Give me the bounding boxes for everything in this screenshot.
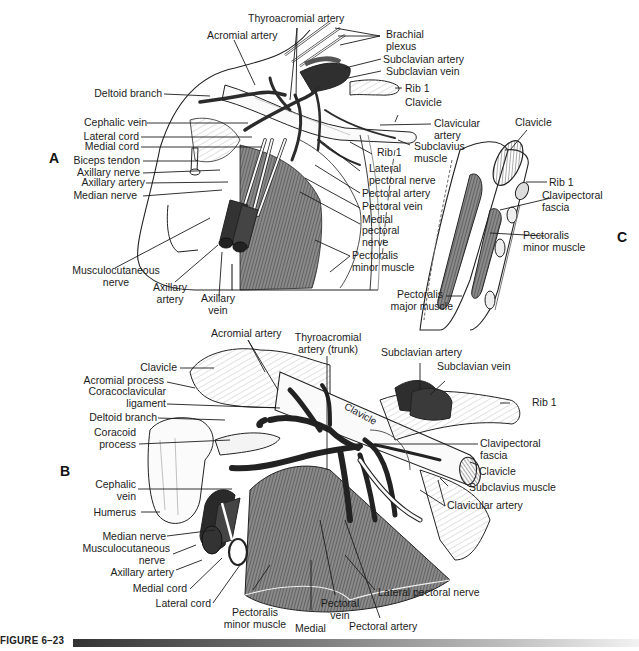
label-cephalic-vein-b-line1: Cephalic bbox=[95, 479, 136, 491]
panel-b-artwork bbox=[148, 349, 520, 612]
label-thyroacromial-artery: Thyroacromial artery bbox=[248, 13, 344, 25]
label-deltoid-branch-b: Deltoid branch bbox=[89, 412, 157, 424]
label-subclavian-artery-b: Subclavian artery bbox=[381, 347, 462, 359]
label-pectoralis-minor-b-line1: Pectoralis bbox=[220, 607, 290, 619]
label-pectoral-vein-b-line1: Pectoral bbox=[315, 598, 365, 610]
panel-letter-a: A bbox=[49, 150, 59, 166]
label-coracoid-process-line2: process bbox=[99, 439, 136, 451]
label-subclavius-muscle-line1: Subclavius bbox=[414, 141, 465, 153]
panel-letter-b: B bbox=[60, 463, 70, 479]
label-clavipectoral-fascia-b-line1: Clavipectoral bbox=[480, 438, 541, 450]
label-axillary-artery-a-left: Axillary artery bbox=[81, 177, 145, 189]
label-axillary-artery-b: Axillary artery bbox=[110, 567, 174, 579]
label-pectoralis-minor-c-line1: Pectoralis bbox=[523, 230, 569, 242]
label-subclavius-muscle-b: Subclavius muscle bbox=[469, 482, 556, 494]
label-lateral-pectoral-nerve-line1: Lateral bbox=[369, 163, 401, 175]
label-median-nerve-b: Median nerve bbox=[102, 531, 166, 543]
label-rib1-c: Rib 1 bbox=[549, 177, 574, 189]
label-thyroacromial-trunk-line1: Thyroacromial bbox=[287, 332, 369, 344]
label-musculocutaneous-b-line1: Musculocutaneous bbox=[82, 543, 170, 555]
label-medial-cord-b: Medial cord bbox=[133, 583, 187, 595]
label-clavipectoral-fascia-b-line2: fascia bbox=[480, 450, 507, 462]
label-lateral-cord-b: Lateral cord bbox=[156, 598, 211, 610]
label-acromial-artery-b: Acromial artery bbox=[211, 328, 282, 340]
label-pectoralis-minor-a-line1: Pectoralis bbox=[352, 250, 398, 262]
label-pectoralis-major-line1: Pectoralis bbox=[397, 289, 443, 301]
label-pectoralis-major-line2: major muscle bbox=[391, 301, 453, 313]
label-clavicle-c: Clavicle bbox=[515, 117, 552, 129]
label-cephalic-vein-a: Cephalic vein bbox=[84, 117, 147, 129]
label-median-nerve-a: Median nerve bbox=[73, 190, 137, 202]
label-cephalic-vein-b-line2: vein bbox=[117, 491, 136, 503]
label-clavicle-a: Clavicle bbox=[405, 97, 442, 109]
label-rib1-a-top: Rib 1 bbox=[405, 83, 430, 95]
label-axillary-artery-a-bottom-line1: Axillary bbox=[150, 282, 190, 294]
label-clavicular-artery-line1: Clavicular bbox=[434, 118, 480, 130]
caption-gradient-bar bbox=[73, 639, 639, 647]
label-acromial-artery: Acromial artery bbox=[207, 30, 278, 42]
label-medial-pectoral-nerve-line2: pectoral bbox=[362, 225, 399, 237]
label-musculocutaneous-b-line2: nerve bbox=[139, 555, 165, 567]
label-clavicle-b-left: Clavicle bbox=[140, 362, 177, 374]
label-pectoralis-minor-a-line2: minor muscle bbox=[352, 262, 414, 274]
label-pectoral-artery-b: Pectoral artery bbox=[349, 621, 417, 633]
label-clavipectoral-fascia-c-line2: fascia bbox=[542, 202, 569, 214]
figure-caption: FIGURE 6–23 bbox=[0, 634, 64, 646]
label-rib1-b: Rib 1 bbox=[532, 397, 557, 409]
label-brachial-plexus-line2: plexus bbox=[386, 41, 416, 53]
label-clavipectoral-fascia-c-line1: Clavipectoral bbox=[542, 190, 603, 202]
label-coracoid-process-line1: Coracoid bbox=[94, 427, 136, 439]
label-brachial-plexus-line1: Brachial bbox=[386, 29, 424, 41]
label-medial-b: Medial bbox=[295, 623, 326, 635]
label-lateral-pectoral-nerve-b: Lateral pectoral nerve bbox=[378, 587, 480, 599]
label-deltoid-branch-a: Deltoid branch bbox=[94, 88, 162, 100]
label-subclavian-vein-b: Subclavian vein bbox=[437, 361, 511, 373]
label-pectoralis-minor-b-line2: minor muscle bbox=[220, 619, 290, 631]
label-pectoral-vein-a: Pectoral vein bbox=[362, 201, 423, 213]
label-clavicular-artery-b: Clavicular artery bbox=[447, 500, 523, 512]
label-medial-pectoral-nerve-line3: nerve bbox=[362, 237, 388, 249]
label-clavicle-b-right: Clavicle bbox=[479, 466, 516, 478]
anatomy-figure: A B C Thyroacromial artery Acromial arte… bbox=[0, 0, 639, 651]
label-coracoclavicular-line2: ligament bbox=[126, 398, 166, 410]
label-biceps-tendon: Biceps tendon bbox=[73, 155, 140, 167]
label-musculocutaneous-a-line1: Musculocutaneous bbox=[68, 265, 164, 277]
label-pectoralis-minor-c-line2: minor muscle bbox=[523, 242, 585, 254]
label-rib1-a-mid: Rib 1 bbox=[377, 147, 402, 159]
label-pectoral-artery-a: Pectoral artery bbox=[362, 188, 430, 200]
label-lateral-pectoral-nerve-line2: pectoral nerve bbox=[369, 175, 436, 187]
label-humerus: Humerus bbox=[93, 507, 136, 519]
label-coracoclavicular-line1: Coracoclavicular bbox=[88, 386, 166, 398]
label-subclavian-artery: Subclavian artery bbox=[383, 54, 464, 66]
label-medial-cord-a: Medial cord bbox=[85, 141, 139, 153]
label-subclavius-muscle-line2: muscle bbox=[414, 153, 447, 165]
panel-letter-c: C bbox=[617, 229, 627, 245]
label-axillary-vein-line2: vein bbox=[196, 305, 240, 317]
label-axillary-artery-a-bottom-line2: artery bbox=[150, 294, 190, 306]
label-axillary-vein-line1: Axillary bbox=[196, 293, 240, 305]
label-subclavian-vein: Subclavian vein bbox=[386, 66, 460, 78]
label-thyroacromial-trunk-line2: artery (trunk) bbox=[287, 344, 369, 356]
